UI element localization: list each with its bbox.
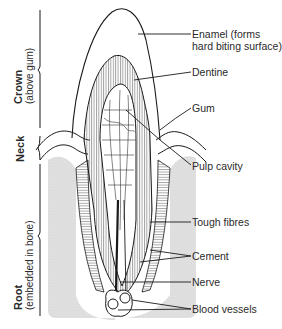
region-label-root: Root (embedded in bone) (12, 220, 36, 310)
label-blood-vessels: Blood vessels (192, 303, 257, 315)
crown-title: Crown (12, 48, 24, 104)
label-enamel-line1: Enamel (forms (192, 28, 282, 40)
gum-left-2 (40, 145, 88, 160)
region-label-neck: Neck (14, 136, 26, 162)
crown-note: (above gum) (24, 48, 36, 104)
label-enamel-line2: hard biting surface) (192, 40, 282, 52)
label-cement: Cement (192, 250, 229, 262)
label-pulp-cavity: Pulp cavity (192, 160, 243, 172)
label-enamel: Enamel (forms hard biting surface) (192, 28, 282, 52)
gum-right (156, 132, 206, 150)
region-brackets (38, 10, 40, 316)
label-tough-fibres: Tough fibres (192, 216, 249, 228)
vessel-1 (108, 299, 118, 309)
label-nerve: Nerve (192, 276, 220, 288)
region-label-crown: Crown (above gum) (12, 48, 36, 104)
vessel-2 (120, 293, 130, 303)
root-note: (embedded in bone) (24, 220, 36, 310)
gum-left (36, 131, 90, 150)
neck-title: Neck (14, 136, 26, 162)
label-gum: Gum (192, 102, 215, 114)
root-title: Root (12, 220, 24, 310)
label-dentine: Dentine (192, 66, 228, 78)
